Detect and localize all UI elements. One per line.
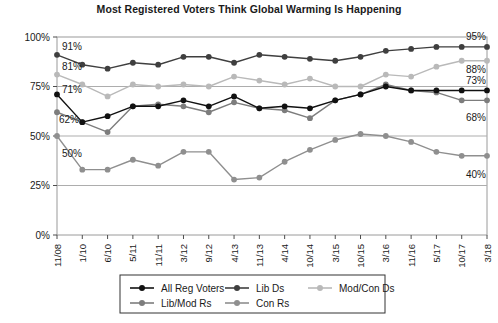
data-point bbox=[484, 88, 490, 94]
data-point bbox=[79, 119, 85, 125]
data-point bbox=[54, 72, 60, 78]
data-point bbox=[434, 88, 440, 94]
data-point bbox=[332, 97, 338, 103]
data-point bbox=[459, 58, 465, 64]
series-end-label: 95% bbox=[466, 31, 486, 42]
series-end-label: 73% bbox=[466, 75, 486, 86]
data-point bbox=[231, 99, 237, 105]
data-point bbox=[434, 64, 440, 70]
data-point bbox=[307, 56, 313, 62]
data-point bbox=[282, 82, 288, 88]
legend-item-label[interactable]: Lib Ds bbox=[256, 283, 284, 294]
data-point bbox=[256, 52, 262, 58]
data-point bbox=[130, 60, 136, 66]
data-point bbox=[105, 129, 111, 135]
data-point bbox=[484, 153, 490, 159]
data-point bbox=[358, 54, 364, 60]
data-point bbox=[130, 157, 136, 163]
x-axis-tick-label: 11/16 bbox=[406, 244, 417, 267]
data-point bbox=[459, 153, 465, 159]
series-start-label: 62% bbox=[59, 114, 79, 125]
x-axis-tick-label: 11/13 bbox=[254, 244, 265, 267]
x-axis-tick-label: 3/15 bbox=[330, 244, 341, 263]
x-axis-tick-label: 4/13 bbox=[229, 244, 240, 263]
y-axis-tick-label: 100% bbox=[24, 32, 50, 43]
data-point bbox=[408, 139, 414, 145]
x-axis-tick-label: 1/10 bbox=[77, 244, 88, 263]
data-point bbox=[155, 84, 161, 90]
legend-item-label[interactable]: All Reg Voters bbox=[161, 283, 224, 294]
data-point bbox=[408, 74, 414, 80]
data-point bbox=[231, 94, 237, 100]
data-point bbox=[181, 149, 187, 155]
data-point bbox=[231, 177, 237, 183]
data-point bbox=[459, 97, 465, 103]
x-axis-tick-label: 10/17 bbox=[456, 244, 467, 268]
series-line bbox=[57, 85, 487, 133]
data-point bbox=[231, 60, 237, 66]
x-axis-tick-label: 10/15 bbox=[355, 244, 366, 268]
data-point bbox=[484, 44, 490, 50]
series-start-label: 71% bbox=[62, 84, 82, 95]
x-axis-tick-label: 4/14 bbox=[279, 244, 290, 263]
legend-box bbox=[120, 275, 385, 313]
data-point bbox=[206, 103, 212, 109]
data-point bbox=[459, 88, 465, 94]
legend-marker-icon bbox=[234, 300, 240, 306]
data-point bbox=[358, 131, 364, 137]
data-point bbox=[105, 113, 111, 119]
data-point bbox=[231, 74, 237, 80]
legend-item-label[interactable]: Mod/Con Ds bbox=[339, 283, 395, 294]
y-axis-tick-label: 0% bbox=[36, 230, 51, 241]
data-point bbox=[459, 44, 465, 50]
data-point bbox=[307, 76, 313, 82]
x-axis-tick-label: 10/14 bbox=[304, 244, 315, 268]
data-point bbox=[282, 54, 288, 60]
series-end-label: 88% bbox=[466, 64, 486, 75]
data-point bbox=[307, 115, 313, 121]
y-axis-tick-label: 75% bbox=[30, 81, 50, 92]
data-point bbox=[130, 103, 136, 109]
data-point bbox=[181, 103, 187, 109]
y-axis-tick-label: 25% bbox=[30, 180, 50, 191]
data-point bbox=[307, 147, 313, 153]
x-axis-tick-label: 9/12 bbox=[203, 244, 214, 263]
series-end-label: 68% bbox=[466, 112, 486, 123]
legend-marker-icon bbox=[139, 285, 145, 291]
data-point bbox=[408, 88, 414, 94]
data-point bbox=[155, 62, 161, 68]
y-axis-tick-label: 50% bbox=[30, 131, 50, 142]
chart-container: Most Registered Voters Think Global Warm… bbox=[0, 0, 498, 323]
data-point bbox=[155, 163, 161, 169]
x-axis-tick-label: 5/17 bbox=[431, 244, 442, 263]
series-start-label: 81% bbox=[62, 61, 82, 72]
data-point bbox=[256, 175, 262, 181]
data-point bbox=[408, 46, 414, 52]
data-point bbox=[206, 54, 212, 60]
data-point bbox=[54, 133, 60, 139]
x-axis-tick-label: 11/11 bbox=[153, 244, 164, 266]
line-chart-plot: 0%25%50%75%100%11/081/106/105/1111/113/1… bbox=[0, 0, 498, 323]
data-point bbox=[484, 97, 490, 103]
data-point bbox=[181, 82, 187, 88]
data-point bbox=[434, 44, 440, 50]
data-point bbox=[358, 84, 364, 90]
data-point bbox=[383, 48, 389, 54]
x-axis-tick-label: 3/16 bbox=[380, 244, 391, 263]
data-point bbox=[79, 167, 85, 173]
data-point bbox=[206, 84, 212, 90]
data-point bbox=[206, 149, 212, 155]
x-axis-tick-label: 5/11 bbox=[127, 244, 138, 262]
legend-marker-icon bbox=[234, 285, 240, 291]
data-point bbox=[105, 66, 111, 72]
data-point bbox=[332, 58, 338, 64]
data-point bbox=[282, 103, 288, 109]
data-point bbox=[155, 103, 161, 109]
legend-item-label[interactable]: Con Rs bbox=[256, 298, 289, 309]
data-point bbox=[105, 94, 111, 100]
legend-item-label[interactable]: Lib/Mod Rs bbox=[161, 298, 212, 309]
data-point bbox=[181, 54, 187, 60]
series-start-label: 91% bbox=[62, 41, 82, 52]
data-point bbox=[434, 149, 440, 155]
data-point bbox=[181, 97, 187, 103]
